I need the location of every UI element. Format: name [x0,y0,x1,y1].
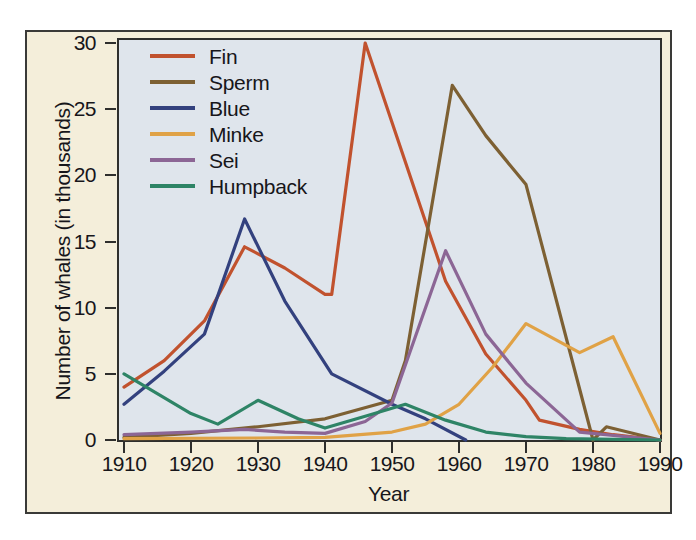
legend-item-sperm[interactable]: Sperm [150,69,380,95]
legend-label: Blue [209,98,250,119]
legend-label: Humpback [209,176,307,197]
legend-swatch-icon [150,80,195,84]
legend-item-fin[interactable]: Fin [150,43,380,69]
legend-swatch-icon [150,106,195,110]
whale-catch-line-chart: 051015202530 191019201930194019501960197… [0,0,696,540]
legend-label: Sei [209,150,238,171]
legend-swatch-icon [150,54,195,58]
legend-item-minke[interactable]: Minke [150,121,380,147]
legend-label: Sperm [209,72,269,93]
legend-swatch-icon [150,158,195,162]
legend: FinSpermBlueMinkeSeiHumpback [150,38,380,199]
legend-item-humpback[interactable]: Humpback [150,173,380,199]
legend-swatch-icon [150,132,195,136]
legend-label: Fin [209,46,237,67]
series-line-minke [124,324,660,439]
legend-swatch-icon [150,184,195,188]
legend-label: Minke [209,124,264,145]
series-line-sei [124,251,660,440]
legend-item-sei[interactable]: Sei [150,147,380,173]
legend-item-blue[interactable]: Blue [150,95,380,121]
